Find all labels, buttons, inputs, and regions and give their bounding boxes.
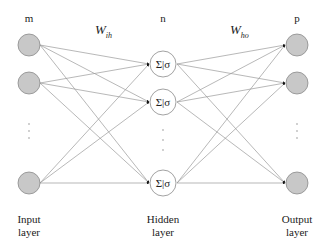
sum-sigma-symbol: Σ|σ — [156, 177, 171, 189]
output-layer-label: Output layer — [274, 213, 320, 239]
input-node — [18, 34, 40, 56]
output-node — [286, 172, 308, 194]
output-count-label: p — [290, 12, 304, 25]
edges-hidden-output — [177, 45, 285, 183]
sum-sigma-symbol: Σ|σ — [156, 96, 171, 108]
input-count-label: m — [22, 12, 36, 25]
hidden-layer-label: Hidden layer — [140, 213, 186, 239]
ellipsis-dots — [28, 123, 298, 151]
output-layer-nodes — [286, 34, 308, 194]
hidden-node-symbols: Σ|σ Σ|σ Σ|σ — [156, 58, 171, 189]
edges-input-hidden — [40, 45, 149, 183]
weight-input-hidden-label: Wih — [95, 22, 112, 40]
input-layer-label: Input layer — [8, 213, 50, 239]
sum-sigma-symbol: Σ|σ — [156, 58, 171, 70]
hidden-layer-nodes — [150, 51, 176, 196]
input-layer-nodes — [18, 34, 40, 194]
output-node — [286, 34, 308, 56]
input-node — [18, 72, 40, 94]
output-node — [286, 72, 308, 94]
weight-hidden-output-label: Who — [230, 22, 249, 40]
hidden-count-label: n — [156, 12, 170, 25]
input-node — [18, 172, 40, 194]
